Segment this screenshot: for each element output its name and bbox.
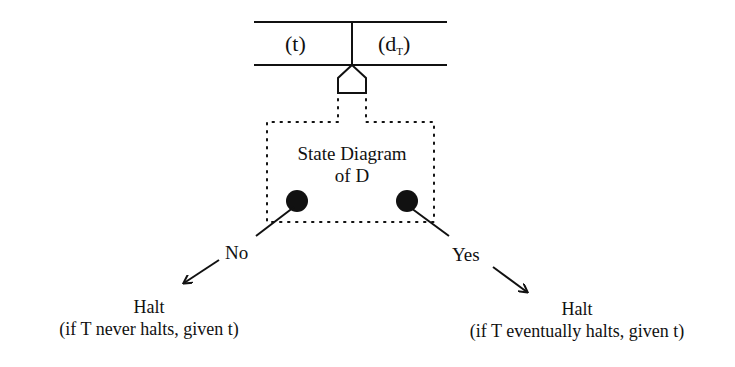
tape-cell-dt: (dT) — [378, 33, 410, 57]
yes-outcome: Halt (if T eventually halts, given t) — [442, 298, 712, 342]
yes-branch-label: Yes — [452, 245, 480, 264]
no-outcome: Halt (if T never halts, given t) — [44, 296, 254, 340]
no-arrow-icon — [184, 260, 219, 283]
yes-state-dot — [396, 190, 418, 212]
read-head-icon — [338, 65, 366, 93]
yes-outcome-condition: (if T eventually halts, given t) — [442, 320, 712, 342]
state-diagram-label-line2: of D — [272, 165, 432, 187]
tape-cell-dt-close: ) — [403, 31, 410, 56]
head-connector — [338, 99, 366, 122]
yes-arrow-icon — [493, 267, 527, 292]
tape — [254, 22, 447, 65]
no-outcome-condition: (if T never halts, given t) — [44, 318, 254, 340]
yes-outcome-title: Halt — [442, 298, 712, 320]
tape-cell-dt-main: (d — [378, 31, 396, 56]
no-outcome-title: Halt — [44, 296, 254, 318]
no-branch-label: No — [225, 243, 248, 262]
tape-cell-t: (t) — [285, 33, 306, 55]
tape-cell-t-label: (t) — [285, 31, 306, 56]
no-state-dot — [286, 190, 308, 212]
state-diagram-label: State Diagram of D — [272, 143, 432, 187]
state-diagram-label-line1: State Diagram — [272, 143, 432, 165]
